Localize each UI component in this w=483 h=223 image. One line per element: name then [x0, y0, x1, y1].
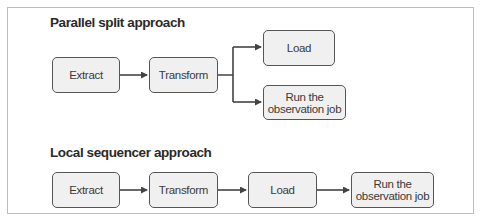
parallel-node-run-observation-job: Run the observation job [263, 85, 346, 120]
sequencer-node-load: Load [248, 172, 317, 208]
node-label: Transform [159, 184, 208, 196]
sequencer-node-extract: Extract [52, 172, 120, 208]
node-label-line2: observation job [268, 103, 342, 115]
section-title-parallel-split: Parallel split approach [50, 15, 185, 30]
parallel-node-load: Load [263, 30, 335, 66]
node-label: Load [270, 184, 294, 196]
sequencer-node-run-observation-job: Run the observation job [351, 172, 434, 208]
node-label: Transform [159, 69, 208, 81]
node-label: Load [287, 42, 311, 54]
section-title-local-sequencer: Local sequencer approach [50, 145, 211, 160]
node-label: Extract [69, 69, 103, 81]
node-label-line1: Run the [356, 178, 430, 190]
parallel-node-extract: Extract [52, 57, 120, 93]
node-label: Extract [69, 184, 103, 196]
sequencer-node-transform: Transform [149, 172, 218, 208]
node-label-line1: Run the [268, 91, 342, 103]
parallel-node-transform: Transform [149, 57, 218, 93]
node-label-line2: observation job [356, 190, 430, 202]
